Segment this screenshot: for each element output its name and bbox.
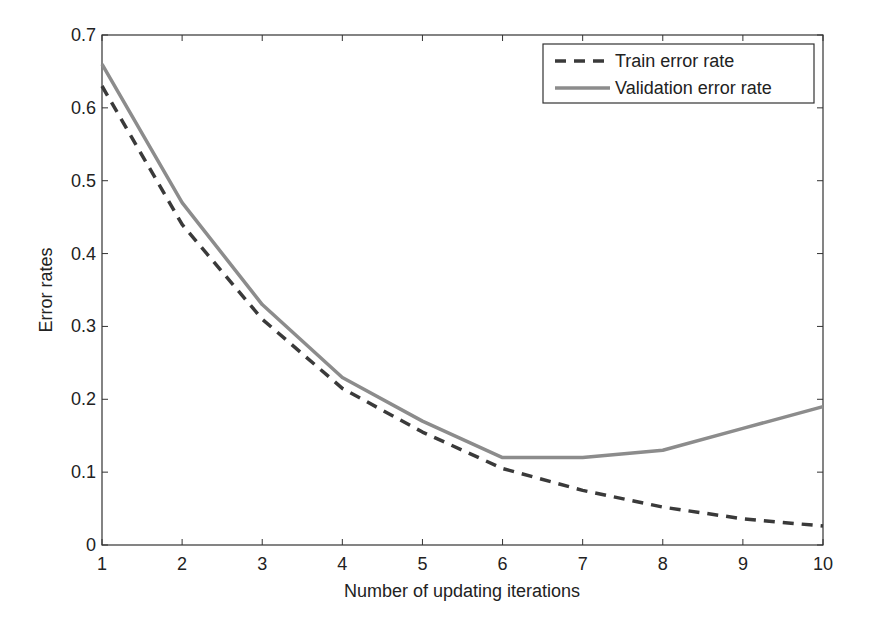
x-axis-title: Number of updating iterations (344, 581, 580, 601)
legend: Train error rate Validation error rate (543, 44, 814, 103)
x-axis: 12345678910 (97, 35, 833, 574)
train-error-line (102, 86, 823, 526)
x-tick-label: 6 (498, 554, 508, 574)
x-tick-label: 1 (97, 554, 107, 574)
y-tick-label: 0.3 (71, 316, 96, 336)
plot-frame (102, 35, 823, 545)
y-axis-title: Error rates (36, 247, 56, 332)
x-tick-label: 4 (337, 554, 347, 574)
plot-border (102, 35, 823, 545)
y-tick-label: 0.1 (71, 462, 96, 482)
x-tick-label: 3 (257, 554, 267, 574)
validation-error-line (102, 64, 823, 457)
x-tick-label: 5 (417, 554, 427, 574)
x-tick-label: 2 (177, 554, 187, 574)
line-chart: 12345678910 00.10.20.30.40.50.60.7 Numbe… (0, 0, 869, 630)
x-tick-label: 10 (813, 554, 833, 574)
y-tick-label: 0 (86, 535, 96, 555)
y-tick-label: 0.4 (71, 244, 96, 264)
y-tick-label: 0.2 (71, 389, 96, 409)
x-tick-label: 8 (658, 554, 668, 574)
y-tick-label: 0.6 (71, 98, 96, 118)
legend-train-label: Train error rate (615, 51, 734, 71)
x-tick-label: 9 (738, 554, 748, 574)
y-tick-label: 0.5 (71, 171, 96, 191)
x-tick-label: 7 (578, 554, 588, 574)
y-axis: 00.10.20.30.40.50.60.7 (71, 25, 823, 555)
y-tick-label: 0.7 (71, 25, 96, 45)
series-layer (102, 64, 823, 526)
legend-validation-label: Validation error rate (615, 78, 772, 98)
